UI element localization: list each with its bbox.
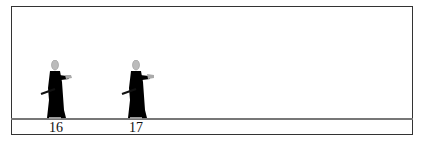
figure-number-17: 17 bbox=[121, 120, 151, 136]
figure-number-16: 16 bbox=[41, 120, 71, 136]
figure-16 bbox=[39, 60, 79, 120]
swordsman-icon bbox=[119, 60, 159, 120]
figure-17 bbox=[119, 60, 159, 120]
swordsman-icon bbox=[39, 60, 79, 120]
